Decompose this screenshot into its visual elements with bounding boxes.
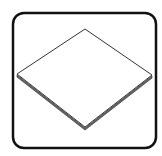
- plate-icon-tile: [0, 0, 162, 156]
- flat-plate-icon: [0, 0, 162, 156]
